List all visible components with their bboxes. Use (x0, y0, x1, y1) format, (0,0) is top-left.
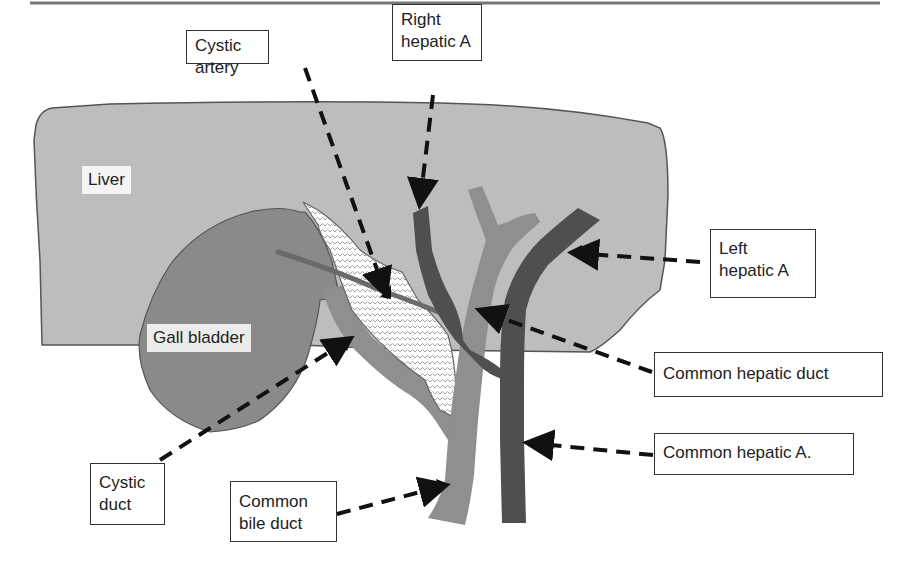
label-cystic-artery: Cystic artery (186, 30, 269, 64)
right-hepatic-a-line2: hepatic A (401, 31, 473, 53)
arrow-common-hepatic-a (530, 443, 653, 455)
liver-label-text: Liver (88, 170, 125, 189)
cystic-duct-line1: Cystic (99, 472, 156, 494)
left-hepatic-a-line2: hepatic A (719, 260, 807, 282)
left-hepatic-a-line1: Left (719, 238, 807, 260)
label-cystic-duct: Cystic duct (90, 463, 165, 525)
cystic-duct-line2: duct (99, 494, 156, 516)
label-common-hepatic-a: Common hepatic A. (654, 433, 854, 475)
label-left-hepatic-a: Left hepatic A (710, 229, 816, 298)
common-hepatic-duct-label-text: Common hepatic duct (663, 364, 828, 383)
label-liver: Liver (82, 166, 131, 194)
common-bile-duct-line1: Common (239, 491, 328, 513)
label-common-hepatic-duct: Common hepatic duct (654, 352, 883, 397)
common-bile-duct-line2: bile duct (239, 513, 328, 535)
arrow-common-bile-duct (337, 486, 443, 514)
common-hepatic-a-label-text: Common hepatic A. (663, 443, 811, 462)
label-common-bile-duct: Common bile duct (230, 481, 337, 542)
label-right-hepatic-a: Right hepatic A (392, 4, 482, 61)
right-hepatic-a-line1: Right (401, 9, 473, 31)
gall-bladder-label-text: Gall bladder (153, 328, 245, 347)
cystic-artery-label-text: Cystic artery (195, 36, 241, 77)
arrowhead-common-hepatic-a (525, 436, 539, 451)
label-gall-bladder: Gall bladder (147, 324, 251, 352)
